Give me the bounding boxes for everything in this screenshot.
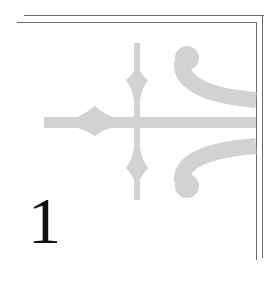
ornament-lower-diamond [126, 148, 148, 186]
chapter-opening-page: 1 [0, 0, 276, 286]
ornament-lower-scroll [175, 146, 256, 198]
ornament-upper-diamond [126, 66, 148, 100]
chapter-number: 1 [28, 188, 61, 254]
ornament-horizontal-diamond [70, 106, 120, 136]
ornament-upper-scroll [175, 46, 256, 100]
